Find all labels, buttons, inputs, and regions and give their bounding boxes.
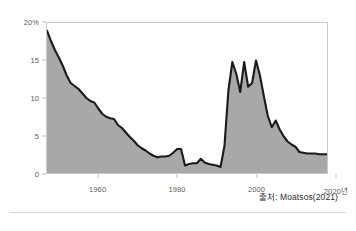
bottom-divider [10,212,346,213]
source-note: 출처: Moatsos(2021) [259,190,338,202]
x-tick-mark [335,174,336,178]
y-tick-label: 20% [24,18,39,27]
plot-area [46,22,328,174]
y-tick-label: 5 [35,132,39,141]
x-tick-label: 1960 [89,185,106,194]
y-tick-label: 15 [30,56,39,65]
x-tick-mark [177,174,178,178]
x-tick-label: 1980 [169,185,186,194]
chart-figure: 20%151050 1960198020002020년 출처: Moatsos(… [0,0,356,231]
y-axis: 20%151050 [0,22,46,174]
x-tick-mark [97,174,98,178]
y-tick-label: 10 [30,94,39,103]
area-chart-svg [47,23,327,173]
x-tick-mark [256,174,257,178]
y-tick-label: 0 [35,170,39,179]
area-fill-path [47,31,327,174]
